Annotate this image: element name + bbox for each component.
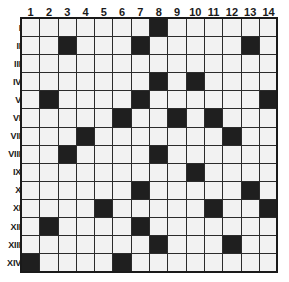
grid-cell-I-1[interactable] — [22, 19, 40, 37]
grid-cell-XI-1[interactable] — [22, 199, 40, 217]
grid-cell-III-2[interactable] — [40, 55, 58, 73]
grid-cell-IV-5[interactable] — [95, 73, 113, 91]
grid-cell-XII-1[interactable] — [22, 218, 40, 236]
grid-cell-X-12[interactable] — [223, 181, 241, 199]
grid-cell-VIII-1[interactable] — [22, 145, 40, 163]
grid-cell-X-4[interactable] — [76, 181, 94, 199]
grid-cell-XIV-5[interactable] — [95, 254, 113, 272]
grid-cell-XIV-7[interactable] — [131, 254, 149, 272]
grid-cell-V-6[interactable] — [113, 91, 131, 109]
grid-cell-V-5[interactable] — [95, 91, 113, 109]
grid-cell-IX-3[interactable] — [58, 163, 76, 181]
grid-cell-XIV-10[interactable] — [186, 254, 204, 272]
grid-cell-XII-9[interactable] — [168, 218, 186, 236]
grid-cell-XIII-5[interactable] — [95, 236, 113, 254]
grid-cell-VI-7[interactable] — [131, 109, 149, 127]
grid-cell-VIII-9[interactable] — [168, 145, 186, 163]
grid-cell-VIII-10[interactable] — [186, 145, 204, 163]
grid-cell-XII-8[interactable] — [150, 218, 168, 236]
grid-cell-VII-3[interactable] — [58, 127, 76, 145]
grid-cell-I-4[interactable] — [76, 19, 94, 37]
grid-cell-IX-12[interactable] — [223, 163, 241, 181]
grid-cell-IV-9[interactable] — [168, 73, 186, 91]
grid-cell-VI-5[interactable] — [95, 109, 113, 127]
grid-cell-VII-1[interactable] — [22, 127, 40, 145]
grid-cell-III-8[interactable] — [150, 55, 168, 73]
grid-cell-IV-2[interactable] — [40, 73, 58, 91]
grid-cell-XIII-12[interactable] — [223, 236, 241, 254]
grid-cell-VIII-3[interactable] — [58, 145, 76, 163]
grid-cell-XI-7[interactable] — [131, 199, 149, 217]
grid-cell-IX-13[interactable] — [241, 163, 259, 181]
grid-cell-III-3[interactable] — [58, 55, 76, 73]
grid-cell-III-1[interactable] — [22, 55, 40, 73]
grid-cell-X-7[interactable] — [131, 181, 149, 199]
grid-cell-VIII-2[interactable] — [40, 145, 58, 163]
grid-cell-VIII-5[interactable] — [95, 145, 113, 163]
grid-cell-VII-14[interactable] — [259, 127, 277, 145]
grid-cell-V-10[interactable] — [186, 91, 204, 109]
grid-cell-VI-12[interactable] — [223, 109, 241, 127]
grid-cell-XIV-13[interactable] — [241, 254, 259, 272]
grid-cell-V-9[interactable] — [168, 91, 186, 109]
grid-cell-II-1[interactable] — [22, 37, 40, 55]
grid-cell-II-11[interactable] — [204, 37, 222, 55]
grid-cell-X-3[interactable] — [58, 181, 76, 199]
grid-cell-VI-9[interactable] — [168, 109, 186, 127]
grid-cell-XIII-4[interactable] — [76, 236, 94, 254]
grid-cell-X-1[interactable] — [22, 181, 40, 199]
grid-cell-XI-9[interactable] — [168, 199, 186, 217]
grid-cell-VIII-8[interactable] — [150, 145, 168, 163]
grid-cell-V-8[interactable] — [150, 91, 168, 109]
grid-cell-VII-12[interactable] — [223, 127, 241, 145]
grid-cell-II-12[interactable] — [223, 37, 241, 55]
grid-cell-VI-3[interactable] — [58, 109, 76, 127]
grid-cell-XIII-2[interactable] — [40, 236, 58, 254]
grid-cell-VII-11[interactable] — [204, 127, 222, 145]
grid-cell-II-3[interactable] — [58, 37, 76, 55]
grid-cell-XIV-4[interactable] — [76, 254, 94, 272]
grid-cell-V-12[interactable] — [223, 91, 241, 109]
grid-cell-I-2[interactable] — [40, 19, 58, 37]
grid-cell-III-11[interactable] — [204, 55, 222, 73]
grid-cell-VII-6[interactable] — [113, 127, 131, 145]
grid-cell-VI-10[interactable] — [186, 109, 204, 127]
grid-cell-IV-7[interactable] — [131, 73, 149, 91]
grid-cell-VI-4[interactable] — [76, 109, 94, 127]
grid-cell-XI-13[interactable] — [241, 199, 259, 217]
grid-cell-VIII-4[interactable] — [76, 145, 94, 163]
grid-cell-IV-4[interactable] — [76, 73, 94, 91]
grid-cell-VIII-7[interactable] — [131, 145, 149, 163]
grid-cell-I-7[interactable] — [131, 19, 149, 37]
grid-cell-XII-7[interactable] — [131, 218, 149, 236]
grid-cell-I-3[interactable] — [58, 19, 76, 37]
grid-cell-II-9[interactable] — [168, 37, 186, 55]
grid-cell-XIV-8[interactable] — [150, 254, 168, 272]
grid-cell-III-5[interactable] — [95, 55, 113, 73]
grid-cell-XIV-9[interactable] — [168, 254, 186, 272]
grid-cell-XI-12[interactable] — [223, 199, 241, 217]
grid-cell-XI-5[interactable] — [95, 199, 113, 217]
grid-cell-V-14[interactable] — [259, 91, 277, 109]
grid-cell-II-7[interactable] — [131, 37, 149, 55]
grid-cell-V-13[interactable] — [241, 91, 259, 109]
grid-cell-VI-6[interactable] — [113, 109, 131, 127]
grid-cell-X-10[interactable] — [186, 181, 204, 199]
grid-cell-IX-5[interactable] — [95, 163, 113, 181]
grid-cell-V-3[interactable] — [58, 91, 76, 109]
grid-cell-XIII-1[interactable] — [22, 236, 40, 254]
grid-cell-X-13[interactable] — [241, 181, 259, 199]
grid-cell-XIII-11[interactable] — [204, 236, 222, 254]
grid-cell-II-10[interactable] — [186, 37, 204, 55]
grid-cell-II-14[interactable] — [259, 37, 277, 55]
grid-cell-XII-5[interactable] — [95, 218, 113, 236]
grid-cell-VI-13[interactable] — [241, 109, 259, 127]
grid-cell-IV-10[interactable] — [186, 73, 204, 91]
grid-cell-VII-10[interactable] — [186, 127, 204, 145]
grid-cell-XIII-9[interactable] — [168, 236, 186, 254]
grid-cell-II-13[interactable] — [241, 37, 259, 55]
grid-cell-III-12[interactable] — [223, 55, 241, 73]
grid-cell-XII-13[interactable] — [241, 218, 259, 236]
grid-cell-I-5[interactable] — [95, 19, 113, 37]
grid-cell-II-5[interactable] — [95, 37, 113, 55]
